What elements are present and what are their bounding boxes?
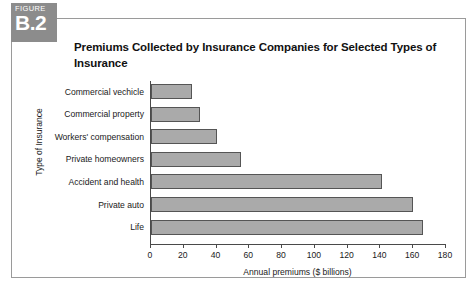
bar [151,129,217,144]
x-axis-tick [379,244,380,248]
bar [151,174,382,189]
x-axis-tick-label: 160 [405,250,419,260]
x-axis-tick [216,244,217,248]
bar-row: Private auto [151,197,413,212]
bar-category-label: Workers' compensation [55,132,144,142]
x-axis-tick-label: 180 [438,250,452,260]
x-axis-tick-label: 80 [276,250,286,260]
x-axis-tick [183,244,184,248]
bar-row: Commercial vechicle [151,84,192,99]
bar-row: Accident and health [151,174,382,189]
x-axis-tick-label: 20 [178,250,188,260]
bar [151,107,200,122]
bar-row: Commercial property [151,107,200,122]
y-axis-title: Type of Insurance [34,87,44,197]
figure-frame: Premiums Collected by Insurance Companie… [11,18,466,278]
x-axis-tick [347,244,348,248]
bar [151,152,241,167]
x-axis-tick [314,244,315,248]
bar-row: Life [151,220,423,235]
x-axis-tick [281,244,282,248]
bar [151,84,192,99]
bar-row: Private homeowners [151,152,241,167]
bar-row: Workers' compensation [151,129,217,144]
x-axis-tick-label: 140 [372,250,386,260]
bar-category-label: Commercial property [64,109,144,119]
x-axis-line [150,244,446,245]
x-axis-tick-label: 120 [339,250,353,260]
x-axis-tick-label: 40 [211,250,221,260]
bar-chart: Type of Insurance Commercial vechicleCom… [12,19,467,279]
bar-category-label: Private auto [98,200,144,210]
x-axis-tick-label: 60 [244,250,254,260]
bar [151,197,413,212]
x-axis-tick [248,244,249,248]
bar-category-label: Commercial vechicle [65,87,144,97]
x-axis-tick-label: 100 [307,250,321,260]
figure-number: B.2 [15,12,57,34]
x-axis-tick [412,244,413,248]
bar-category-label: Life [130,222,144,232]
x-axis-title: Annual premiums ($ billions) [150,267,445,277]
bar [151,220,423,235]
bar-category-label: Private homeowners [66,154,144,164]
figure-badge: FIGURE B.2 [11,3,57,42]
x-axis-tick-label: 0 [148,250,153,260]
plot-area: Commercial vechicleCommercial propertyWo… [150,81,445,244]
x-axis-tick [150,244,151,248]
bar-category-label: Accident and health [69,177,145,187]
x-axis-tick [445,244,446,248]
